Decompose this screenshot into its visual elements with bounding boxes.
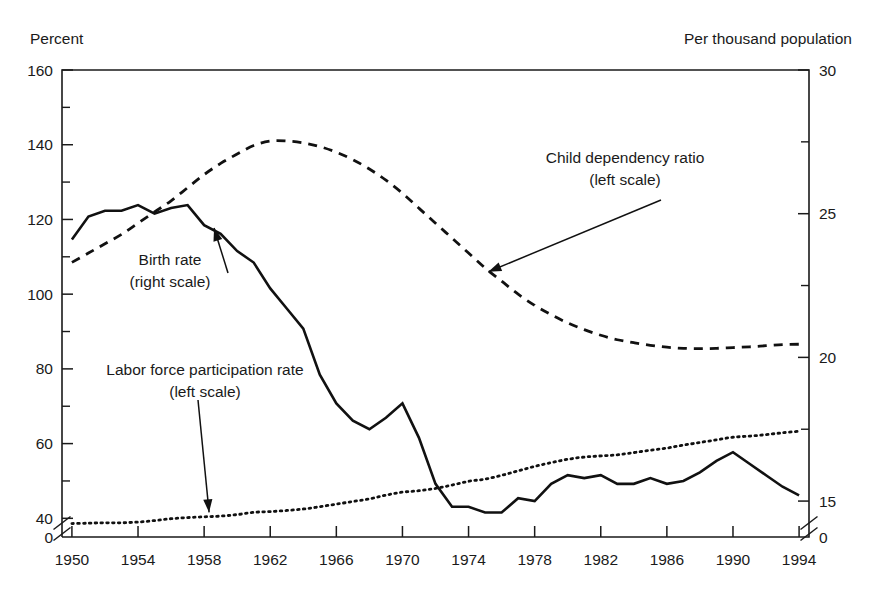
x-axis-tick-label: 1986 (650, 551, 684, 568)
right-axis-tick-label: 25 (819, 205, 836, 222)
annotation-leader-labor-force-participation-rate (198, 400, 209, 512)
annotation-arrow-labor-force-participation-rate (203, 499, 212, 512)
x-axis-tick-label: 1954 (121, 551, 156, 568)
x-axis-tick-label: 1982 (584, 551, 618, 568)
x-axis-tick-label: 1958 (187, 551, 221, 568)
x-axis-tick-label: 1970 (385, 551, 420, 568)
x-axis-tick-label: 1990 (716, 551, 751, 568)
left-axis-tick-label: 60 (36, 435, 54, 452)
left-axis-tick-label: 120 (27, 211, 53, 228)
annotation-label-labor-force-participation-rate: Labor force participation rate (106, 361, 303, 378)
x-axis-tick-label: 1974 (451, 551, 486, 568)
plot-area: 4060801001201401600152025300195019541958… (0, 0, 870, 602)
left-axis-tick-label: 40 (36, 510, 54, 527)
left-axis-zero-label: 0 (44, 529, 53, 546)
annotation-label-child-dependency-ratio: Child dependency ratio (546, 149, 705, 166)
x-axis-tick-label: 1978 (517, 551, 551, 568)
x-axis-tick-label: 1966 (319, 551, 353, 568)
annotation-leader-child-dependency-ratio (488, 200, 661, 272)
right-axis-tick-label: 30 (819, 62, 837, 79)
right-axis-zero-label: 0 (819, 529, 828, 546)
right-axis-tick-label: 15 (819, 493, 836, 510)
series-child-dependency-ratio (72, 141, 799, 349)
annotation-label-birth-rate: (right scale) (130, 273, 211, 290)
x-axis-tick-label: 1950 (55, 551, 90, 568)
right-axis-tick-label: 20 (819, 349, 837, 366)
left-axis-tick-label: 160 (27, 62, 53, 79)
annotation-label-child-dependency-ratio: (left scale) (589, 171, 661, 188)
left-axis-tick-label: 140 (27, 136, 53, 153)
x-axis-tick-label: 1994 (782, 551, 817, 568)
annotation-arrow-child-dependency-ratio (488, 263, 502, 272)
plot-frame (62, 70, 809, 537)
annotation-label-labor-force-participation-rate: (left scale) (169, 383, 241, 400)
left-axis-tick-label: 80 (36, 360, 54, 377)
left-axis-title: Percent (30, 30, 83, 48)
x-axis-tick-label: 1962 (253, 551, 287, 568)
right-axis-title: Per thousand population (684, 30, 852, 48)
chart-figure: Percent Per thousand population 40608010… (0, 0, 870, 602)
annotation-label-birth-rate: Birth rate (139, 251, 202, 268)
left-axis-tick-label: 100 (27, 286, 53, 303)
